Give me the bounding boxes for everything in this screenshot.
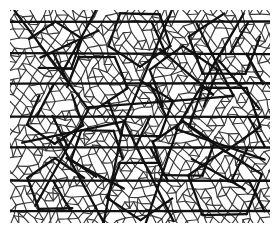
fine-tile-edge [68,218,78,219]
fine-tile-edge [144,107,152,108]
fine-tile-edge [143,92,154,93]
fine-tile-edge [46,102,55,103]
fine-tile-edge [173,37,184,38]
fine-tile-edge [167,193,176,194]
tiling-canvas [0,0,277,234]
fine-tile-edge [123,32,131,33]
coarse-tile-edge [39,208,73,209]
fine-tile-edge [84,133,95,134]
fine-tile-edge [189,93,197,94]
fine-tile-edge [83,165,92,166]
fine-tile-edge [136,86,147,87]
fine-tile-edge [104,64,112,65]
fine-tile-edge [105,94,116,95]
fine-tile-edge [129,197,130,208]
fine-tile-edge [205,217,213,218]
fine-tile-edge [142,49,149,50]
coarse-tile-edge [39,68,72,69]
fine-tile-edge [111,190,122,191]
fine-tile-edge [115,110,123,111]
fine-tile-edge [34,155,42,156]
fine-tile-edge [98,62,99,69]
fine-tile-edge [84,96,94,97]
fine-tile-edge [255,163,267,164]
coarse-tile-edge [120,13,160,14]
fine-tile-edge [78,171,86,172]
fine-tile-edge [225,48,226,58]
fine-tile-edge [226,57,235,58]
tiling-figure [0,0,277,234]
fine-tile-edge [259,201,269,202]
fine-tile-edge [96,141,104,142]
fine-tile-edge [201,198,212,199]
coarse-tile-edge [202,214,246,215]
fine-tile-edge [180,63,187,64]
fine-tile-edge [18,125,24,126]
coarse-tile-edge [164,175,203,176]
